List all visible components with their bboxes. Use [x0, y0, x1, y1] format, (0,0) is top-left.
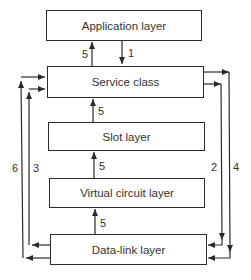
arrow-label-5-vc: 5 [99, 161, 105, 172]
arrow-label-6: 6 [12, 163, 18, 174]
service-class-box: Service class [47, 66, 204, 98]
arrow-4-service-to-datalink [208, 252, 230, 258]
virtual-circuit-layer-label: Virtual circuit layer [80, 187, 174, 199]
arrow-label-5-slot: 5 [98, 106, 104, 117]
arrow-label-4: 4 [233, 162, 239, 173]
slot-layer-label: Slot layer [103, 131, 151, 143]
service-class-label: Service class [92, 76, 160, 88]
arrow-2-service-to-datalink [208, 240, 222, 245]
arrow-label-2: 2 [211, 162, 217, 173]
data-link-layer-box: Data-link layer [50, 234, 207, 265]
application-layer-label: Application layer [82, 20, 166, 32]
arrow-label-5-app: 5 [82, 49, 88, 60]
data-link-layer-label: Data-link layer [92, 244, 166, 256]
arrow-label-5-datalink: 5 [100, 218, 106, 229]
arrow-label-3: 3 [33, 163, 39, 174]
slot-layer-box: Slot layer [48, 122, 205, 151]
application-layer-box: Application layer [46, 10, 202, 41]
arrow-label-1: 1 [128, 48, 134, 59]
virtual-circuit-layer-box: Virtual circuit layer [49, 178, 205, 208]
